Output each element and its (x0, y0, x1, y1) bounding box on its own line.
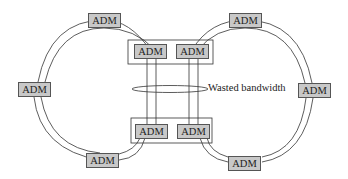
adm-node-bottom-left: ADM (86, 153, 119, 168)
wasted-bandwidth-label: Wasted bandwidth (208, 82, 286, 93)
adm-node-inner-bottom-left: ADM (135, 124, 168, 139)
left-ring-inner-bottom (41, 97, 100, 153)
adm-node-inner-top-left: ADM (134, 44, 167, 59)
adm-node-bottom-right: ADM (228, 156, 261, 171)
adm-node-right: ADM (298, 83, 331, 98)
adm-node-top-left: ADM (88, 13, 121, 28)
adm-node-top-right: ADM (229, 13, 262, 28)
ring-diagram (0, 0, 348, 179)
adm-node-inner-top-right: ADM (176, 44, 209, 59)
wasted-bandwidth-ellipse (132, 86, 208, 93)
adm-node-inner-bottom-right: ADM (177, 124, 210, 139)
adm-node-left: ADM (18, 82, 51, 97)
left-ring-outer-bottom (34, 97, 100, 160)
